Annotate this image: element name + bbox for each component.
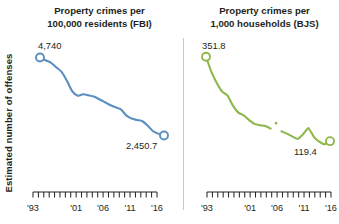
fbi-start-marker [36,53,44,61]
fbi-data-line [40,57,164,135]
y-axis-label-wrapper: Estimated number of offenses [0,38,16,208]
fbi-start-value-label: 4,740 [38,40,61,51]
x-axis-tick-label: '06 [97,203,109,213]
bjs-end-marker [326,137,334,145]
fbi-end-value-label: 2,450.7 [126,140,157,151]
bjs-data-line-segment-1 [206,57,271,129]
x-axis-tick-label: '06 [271,203,283,213]
x-axis-tick-label: '93 [201,203,213,213]
x-axis-fbi-tick-labels: '93'01'06'11'16 [30,203,160,217]
fbi-end-marker [160,131,168,139]
panel-divider [183,38,184,210]
x-axis-tick-label: '11 [124,203,135,213]
bjs-start-marker [202,53,210,61]
bjs-data-line-segment-2 [281,128,330,144]
x-axis-tick-label: '16 [151,203,163,213]
x-axis-tick-label: '01 [244,203,256,213]
x-axis-tick-label: '11 [298,203,309,213]
x-axis-bjs-tick-labels: '93'01'06'11'16 [204,203,334,217]
x-axis-tick-label: '16 [325,203,337,213]
x-axis-tick-label: '93 [27,203,39,213]
figure-container: Estimated number of offenses Property cr… [0,0,339,224]
bjs-series-break-marker [275,122,278,125]
x-axis-fbi: '93'01'06'11'16 [30,190,160,220]
y-axis-label: Estimated number of offenses [3,54,14,193]
x-axis-tick-label: '01 [70,203,82,213]
x-axis-bjs: '93'01'06'11'16 [204,190,334,220]
bjs-end-value-label: 119.4 [294,146,317,157]
bjs-start-value-label: 351.8 [202,40,225,51]
